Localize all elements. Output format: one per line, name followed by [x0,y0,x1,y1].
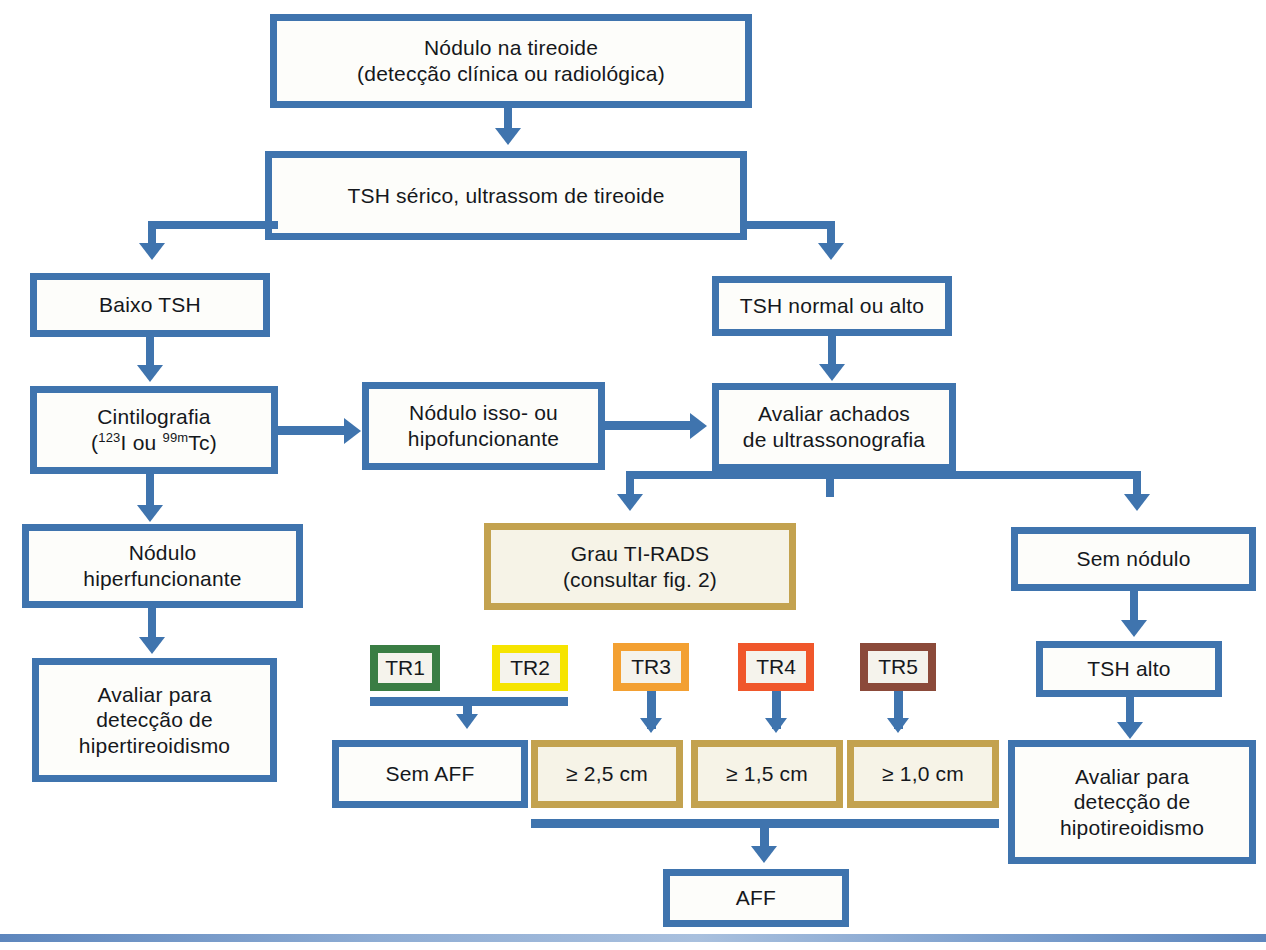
node-size-threshold-3: ≥ 1,0 cm [847,740,999,808]
node-nodulo-hiper-line2: hiperfuncionante [35,566,290,592]
node-nodulo-isso-hipo: Nódulo isso- ou hipofuncionante [362,382,605,470]
node-cintilografia-line1: Cintilografia [43,404,265,430]
arrowhead-tr1-tr2-to-semaff [456,714,478,729]
arrowhead-tshnormal-to-avaliar [819,364,845,381]
arrowhead-tr4-to-size2 [765,718,787,733]
node-nodulo-tireoide-line2: (detecção clínica ou radiológica) [283,61,739,87]
arrowhead-tr5-to-size3 [887,718,909,733]
connector-tsh-split-right [740,221,835,229]
arrowhead-isso-to-avaliar [690,413,707,439]
chip-tr5-label: TR5 [878,655,918,679]
node-nodulo-tireoide-line1: Nódulo na tireoide [283,35,739,61]
node-nodulo-tireoide: Nódulo na tireoide (detecção clínica ou … [270,14,752,108]
node-size-threshold-3-label: ≥ 1,0 cm [860,761,986,787]
isotope-conjunction: ou [127,431,163,454]
arrowhead-cintilografia-to-isso [344,418,361,444]
node-tsh-serico-line1: TSH sérico, ultrassom de tireoide [278,183,734,209]
arrowhead-hiper-to-avaliarhiper [139,637,165,654]
arrowhead-tsh-to-baixo [139,243,165,260]
chip-tr2[interactable]: TR2 [492,645,568,691]
node-sem-nodulo-line1: Sem nódulo [1024,546,1243,572]
arrowhead-cintilografia-to-hiper [137,505,163,522]
arrowhead-tsh-to-tshnormal [818,243,844,260]
node-tsh-alto: TSH alto [1036,641,1222,697]
chip-tr2-label: TR2 [510,656,550,680]
node-baixo-tsh-line1: Baixo TSH [43,292,257,318]
node-avaliar-hipo-line3: hipotireoidismo [1021,815,1243,841]
node-tsh-normal-alto: TSH normal ou alto [712,276,952,336]
node-nodulo-isso-hipo-line2: hipofuncionante [375,426,592,452]
node-tsh-normal-alto-line1: TSH normal ou alto [725,293,939,319]
arrowhead-baixo-to-cintilografia [137,365,163,382]
arrowhead-tr3-to-size1 [640,718,662,733]
chip-tr5[interactable]: TR5 [860,643,936,691]
chip-tr3[interactable]: TR3 [613,643,689,691]
node-avaliar-achados-line1: Avaliar achados [725,401,943,427]
node-tsh-serico: TSH sérico, ultrassom de tireoide [265,151,747,240]
node-avaliar-achados-line2: de ultrassonografia [725,427,943,453]
chip-tr1[interactable]: TR1 [370,645,440,691]
node-size-threshold-1-label: ≥ 2,5 cm [544,761,670,787]
node-sem-nodulo: Sem nódulo [1011,527,1256,591]
connector-avaliar-split-bar [626,471,1141,479]
node-avaliar-achados: Avaliar achados de ultrassonografia [712,383,956,471]
node-avaliar-hiper-line2: detecção de [45,707,264,733]
node-cintilografia: Cintilografia (123I ou 99mTc) [30,386,278,474]
flowchart-canvas: Nódulo na tireoide (detecção clínica ou … [0,0,1266,950]
node-avaliar-hipertireoidismo: Avaliar para detecção de hipertireoidism… [32,658,277,782]
node-nodulo-hiper-line1: Nódulo [35,540,290,566]
isotope-tc-symbol: Tc [188,431,209,454]
isotope-123-superscript: 123 [98,430,120,445]
node-avaliar-hipo-line1: Avaliar para [1021,764,1243,790]
chip-tr1-label: TR1 [385,656,425,680]
arrowhead-nodulo-to-tsh [495,128,521,145]
node-avaliar-hipo-line2: detecção de [1021,789,1243,815]
node-aff-line1: AFF [676,885,836,911]
node-tsh-alto-line1: TSH alto [1049,656,1209,682]
arrowhead-sizes-to-aff [751,846,777,863]
node-nodulo-isso-hipo-line1: Nódulo isso- ou [375,400,592,426]
arrowhead-semnodulo-to-tshalto [1121,620,1147,637]
arrowhead-avaliar-to-semnodulo [1124,494,1150,511]
node-grau-tirads-line1: Grau TI-RADS [497,541,783,567]
connector-tsh-split-left [148,221,278,229]
node-size-threshold-2-label: ≥ 1,5 cm [704,761,830,787]
connector-isso-to-avaliar [605,421,693,430]
node-cintilografia-isotopes: (123I ou 99mTc) [43,430,265,456]
node-baixo-tsh: Baixo TSH [30,273,270,337]
node-avaliar-hiper-line3: hipertireoidismo [45,733,264,759]
connector-cintilografia-to-isso [278,426,348,435]
arrowhead-avaliar-to-tirads [617,494,643,511]
node-sem-aff: Sem AFF [332,740,528,808]
node-avaliar-hipotireoidismo: Avaliar para detecção de hipotireoidismo [1008,740,1256,864]
node-grau-tirads-line2: (consultar fig. 2) [497,567,783,593]
node-size-threshold-2: ≥ 1,5 cm [691,740,843,808]
node-grau-tirads: Grau TI-RADS (consultar fig. 2) [484,523,796,610]
isotope-99m-superscript: 99m [162,430,188,445]
chip-tr4-label: TR4 [756,655,796,679]
node-size-threshold-1: ≥ 2,5 cm [531,740,683,808]
arrowhead-tshalto-to-avaliarhipo [1117,722,1143,739]
node-sem-aff-line1: Sem AFF [345,761,515,787]
chip-tr4[interactable]: TR4 [738,643,814,691]
node-avaliar-hiper-line1: Avaliar para [45,682,264,708]
node-nodulo-hiperfuncionante: Nódulo hiperfuncionante [22,524,303,608]
node-aff: AFF [663,869,849,927]
footer-rule [0,934,1266,942]
chip-tr3-label: TR3 [631,655,671,679]
